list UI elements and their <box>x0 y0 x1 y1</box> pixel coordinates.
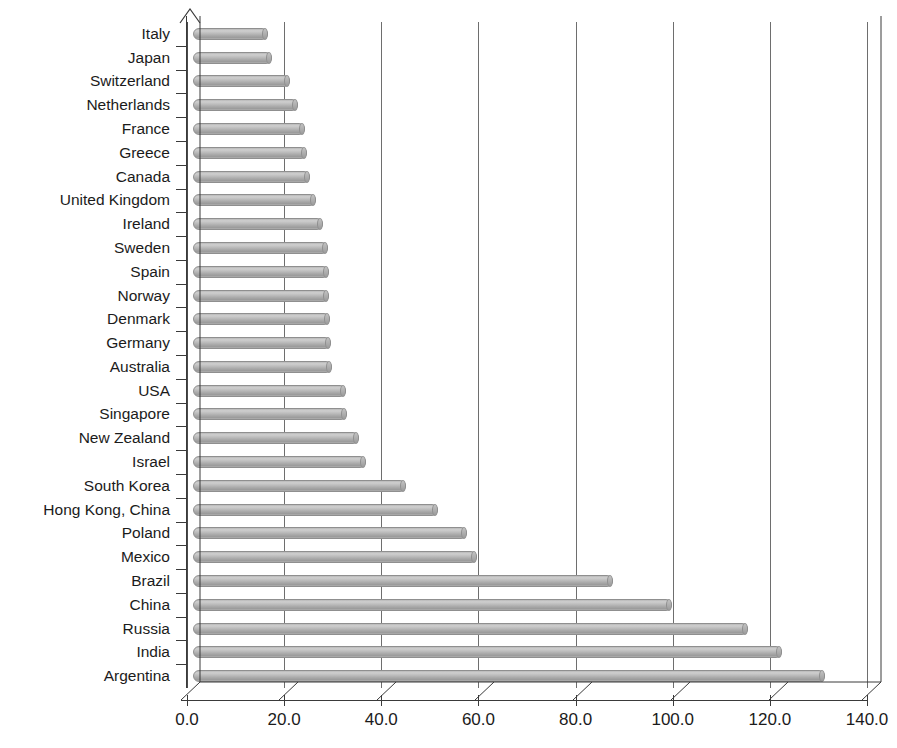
bar-netherlands[interactable] <box>193 99 298 111</box>
bar-row <box>187 355 867 379</box>
bar-china[interactable] <box>193 599 672 611</box>
category-label-australia: Australia <box>110 358 170 375</box>
bar-usa[interactable] <box>193 385 346 397</box>
bar-row <box>187 165 867 189</box>
bar-germany[interactable] <box>193 337 331 349</box>
bar-row <box>187 189 867 213</box>
bar-sweden[interactable] <box>193 242 328 254</box>
bar-row <box>187 522 867 546</box>
bar-chart: ItalyJapanSwitzerlandNetherlandsFranceGr… <box>0 0 897 748</box>
category-tick <box>176 46 186 47</box>
gridline-140-0 <box>867 22 868 688</box>
category-label-greece: Greece <box>119 144 170 161</box>
bar-row <box>187 569 867 593</box>
category-label-hong-kong-china: Hong Kong, China <box>43 501 170 518</box>
category-tick <box>176 355 186 356</box>
category-label-russia: Russia <box>123 620 170 637</box>
value-tick-120-0 <box>770 695 771 706</box>
category-tick <box>176 141 186 142</box>
bar-argentina[interactable] <box>193 670 825 682</box>
value-tick-60-0 <box>478 695 479 706</box>
category-tick <box>176 426 186 427</box>
category-tick <box>176 307 186 308</box>
bar-spain[interactable] <box>193 266 329 278</box>
category-tick <box>176 474 186 475</box>
category-label-germany: Germany <box>106 334 170 351</box>
bar-row <box>187 236 867 260</box>
category-label-new-zealand: New Zealand <box>79 429 170 446</box>
category-label-israel: Israel <box>132 453 170 470</box>
bar-row <box>187 212 867 236</box>
bar-row <box>187 70 867 94</box>
bar-norway[interactable] <box>193 290 329 302</box>
bar-row <box>187 93 867 117</box>
value-tick-100-0 <box>673 695 674 706</box>
bar-poland[interactable] <box>193 527 467 539</box>
value-tick-label-120-0: 120.0 <box>749 710 792 730</box>
bar-south-korea[interactable] <box>193 480 406 492</box>
bar-brazil[interactable] <box>193 575 613 587</box>
category-tick <box>176 593 186 594</box>
value-axis: 0.020.040.060.080.0100.0120.0140.0 <box>181 700 867 702</box>
bar-row <box>187 331 867 355</box>
bar-italy[interactable] <box>193 28 268 40</box>
bar-row <box>187 450 867 474</box>
bar-australia[interactable] <box>193 361 332 373</box>
bar-singapore[interactable] <box>193 408 347 420</box>
bar-switzerland[interactable] <box>193 75 290 87</box>
category-label-netherlands: Netherlands <box>86 96 170 113</box>
category-tick <box>176 93 186 94</box>
bar-row <box>187 403 867 427</box>
bar-row <box>187 498 867 522</box>
category-label-china: China <box>130 596 171 613</box>
bar-row <box>187 141 867 165</box>
bar-india[interactable] <box>193 646 782 658</box>
bar-row <box>187 640 867 664</box>
category-label-mexico: Mexico <box>121 548 170 565</box>
category-tick <box>176 284 186 285</box>
bar-ireland[interactable] <box>193 218 323 230</box>
category-tick <box>176 236 186 237</box>
value-tick-label-20-0: 20.0 <box>268 710 301 730</box>
value-tick-label-140-0: 140.0 <box>846 710 889 730</box>
bar-japan[interactable] <box>193 52 272 64</box>
bar-row <box>187 426 867 450</box>
bar-israel[interactable] <box>193 456 366 468</box>
category-label-canada: Canada <box>116 168 170 185</box>
category-tick <box>176 569 186 570</box>
bar-canada[interactable] <box>193 171 310 183</box>
value-tick-40-0 <box>381 695 382 706</box>
value-tick-80-0 <box>576 695 577 706</box>
bar-new-zealand[interactable] <box>193 432 359 444</box>
bar-united-kingdom[interactable] <box>193 194 316 206</box>
bar-row <box>187 284 867 308</box>
bar-france[interactable] <box>193 123 305 135</box>
bar-row <box>187 22 867 46</box>
category-label-singapore: Singapore <box>99 405 170 422</box>
value-tick-20-0 <box>284 695 285 706</box>
category-label-france: France <box>122 120 170 137</box>
category-label-south-korea: South Korea <box>84 477 170 494</box>
value-tick-140-0 <box>867 695 868 706</box>
category-tick <box>176 664 186 665</box>
bar-russia[interactable] <box>193 623 748 635</box>
bar-row <box>187 593 867 617</box>
value-tick-0-0 <box>187 695 188 706</box>
bar-row <box>187 545 867 569</box>
category-label-brazil: Brazil <box>131 572 170 589</box>
bar-row <box>187 117 867 141</box>
category-tick <box>176 522 186 523</box>
category-label-switzerland: Switzerland <box>90 72 170 89</box>
bar-mexico[interactable] <box>193 551 477 563</box>
category-label-usa: USA <box>138 382 170 399</box>
bar-row <box>187 474 867 498</box>
bar-row <box>187 379 867 403</box>
category-label-india: India <box>136 643 170 660</box>
category-label-japan: Japan <box>128 49 170 66</box>
category-label-spain: Spain <box>130 263 170 280</box>
bar-denmark[interactable] <box>193 313 330 325</box>
bar-greece[interactable] <box>193 147 307 159</box>
bar-hong-kong-china[interactable] <box>193 504 438 516</box>
category-tick <box>176 498 186 499</box>
category-label-ireland: Ireland <box>123 215 170 232</box>
